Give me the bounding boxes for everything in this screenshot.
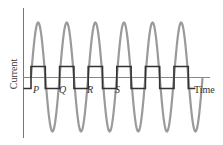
label-s: S [115,84,120,95]
x-axis-label: Time [194,84,215,95]
y-axis-label: Current [8,59,19,90]
label-q: Q [59,84,67,95]
label-p: P [32,84,39,95]
label-r: R [86,84,93,95]
waveform-diagram: P Q R S Time Current [0,0,223,145]
